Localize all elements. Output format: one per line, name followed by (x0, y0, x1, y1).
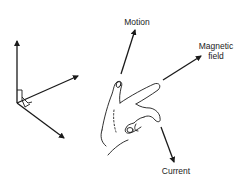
thumb-outline (102, 81, 122, 130)
hand-illustration (101, 81, 160, 155)
palm-crease (114, 110, 116, 132)
curled-fingers-outline (125, 117, 144, 133)
wrist-line (108, 140, 128, 155)
diagonal-axis-arrow (17, 103, 64, 138)
current-arrow (161, 127, 174, 162)
magnetic-field-label: Magnetic field (193, 41, 239, 61)
motion-label: Motion (117, 17, 157, 27)
hand-arrows (121, 30, 201, 162)
palm-outline (101, 130, 106, 146)
index-finger-outline (120, 83, 160, 104)
current-label: Current (156, 166, 196, 176)
curled-finger-tip (127, 128, 133, 133)
diagram-canvas: Motion Magnetic field Current (0, 0, 251, 186)
diagram-svg (0, 0, 251, 186)
magnetic-field-label-line1: Magnetic (193, 41, 239, 51)
horizontal-axis-arrow (17, 76, 78, 103)
motion-arrow (121, 30, 135, 74)
axes-group (17, 41, 78, 138)
right-angle-marker-1 (17, 90, 22, 100)
magnetic-field-label-line2: field (193, 51, 239, 61)
